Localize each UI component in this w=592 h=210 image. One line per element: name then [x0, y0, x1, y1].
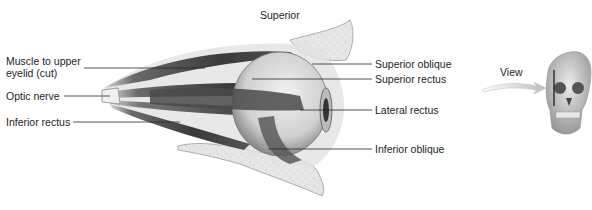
label-superior-oblique: Superior oblique	[375, 58, 451, 70]
label-optic-nerve: Optic nerve	[6, 90, 60, 102]
view-arrow-icon	[482, 82, 546, 94]
orientation-label: Superior	[260, 9, 300, 21]
view-label: View	[500, 66, 523, 78]
view-inset	[482, 52, 591, 134]
label-superior-rectus: Superior rectus	[375, 73, 446, 85]
label-inferior-rectus: Inferior rectus	[6, 116, 70, 128]
eye-muscles-diagram: Superior Muscle to upper eyelid (cut) Op…	[0, 0, 592, 210]
label-inferior-oblique: Inferior oblique	[375, 143, 444, 155]
eye-orbit-illustration	[0, 0, 592, 210]
label-muscle-upper-eyelid: Muscle to upper eyelid (cut)	[6, 55, 81, 79]
skull-front-view-icon	[546, 52, 591, 134]
label-lateral-rectus: Lateral rectus	[375, 104, 439, 116]
